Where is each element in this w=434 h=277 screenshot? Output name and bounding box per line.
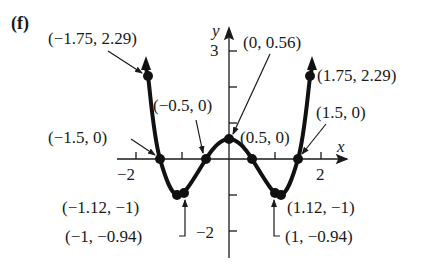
annotation-p2: (−1.5, 0) [48,128,107,147]
point-p6 [224,134,234,144]
point-p10 [293,154,303,164]
annotation-p3: (−1.12, −1) [62,198,139,217]
x-axis-arrow-icon [337,155,347,163]
annotation-p11: (1.75, 2.29) [317,66,396,85]
annotation-p10: (1.5, 0) [316,103,366,122]
function-graph: (f) x y −2 2 3 −2 [0,0,434,277]
y-axis-label: y [210,21,220,40]
curve-right-arrow-icon [307,56,317,70]
point-p11 [305,71,315,81]
x-tick-label-neg2: −2 [117,165,135,184]
annotation-p9: (1.12, −1) [287,198,355,217]
x-axis-label: x [336,137,345,156]
annotation-p6: (0, 0.56) [243,33,301,52]
annotation-p8: (1, −0.94) [285,227,353,246]
point-p9 [276,190,286,200]
point-p2 [155,154,165,164]
curve-left-arrow-icon [141,56,151,70]
annotation-p5: (−0.5, 0) [153,96,212,115]
point-p5 [201,154,211,164]
x-tick-label-2: 2 [316,165,325,184]
y-tick-label-neg2: −2 [196,223,214,242]
y-tick-label-3: 3 [210,41,219,60]
annotation-p1: (−1.75, 2.29) [48,29,137,48]
point-p7 [247,154,257,164]
point-p4 [179,188,189,198]
y-axis-arrow-icon [225,28,233,39]
point-p1 [143,71,153,81]
part-label: (f) [11,13,29,34]
annotation-p4: (−1, −0.94) [65,227,142,246]
annotation-p7: (0.5, 0) [240,128,290,147]
